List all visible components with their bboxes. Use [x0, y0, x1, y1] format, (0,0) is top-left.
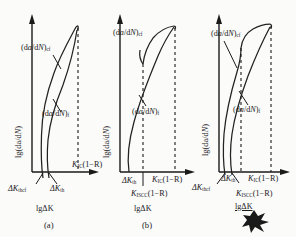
- panel-b-corrosion-fatigue-label: (da/dN)cf: [113, 29, 142, 37]
- panel-a-y-axis-label: lg(da/dN): [14, 126, 23, 158]
- kiscc-suffix: (1−R): [148, 189, 168, 198]
- panel-b-fatigue-label: (da/dN)f: [132, 108, 159, 116]
- y-axis-arrow: [29, 14, 35, 24]
- cf-lbl-sub: cf: [139, 31, 143, 37]
- dark-ink-blotch-artifact: [242, 208, 272, 234]
- panel-b-kic-label: KIC(1−R): [152, 176, 182, 184]
- panel-a-caption: (a): [44, 221, 54, 230]
- corrosion-fatigue-curve: [143, 26, 174, 64]
- kiscc-suffix: (1−R): [253, 189, 273, 198]
- fatigue-curve: [128, 27, 174, 172]
- y-label-N: N: [201, 127, 210, 133]
- x-axis-arrow: [280, 169, 290, 175]
- x-axis-text: lgΔK: [134, 204, 152, 213]
- f-lbl-sub: f: [158, 110, 160, 116]
- fatigue-curve: [231, 27, 271, 175]
- panel-b-caption: (b): [142, 221, 152, 230]
- panel-a-tick-delta-k-thcf: ΔKthcf: [8, 185, 26, 193]
- thcf-sym: ΔK: [8, 184, 18, 193]
- panel-c: lg(da/dN) (da/dN)cf (da/dN)f ΔKthcf ΔKth…: [192, 0, 296, 237]
- x-axis-text: lgΔK: [36, 204, 54, 213]
- th-sym: ΔK: [50, 184, 60, 193]
- y-label-text: lg(da/d: [102, 134, 111, 158]
- panel-a: lg(da/dN) (da/dN)cf (da/dN)f ΔKthcf ΔKth…: [0, 0, 100, 237]
- thcf-sub: thcf: [202, 186, 210, 192]
- th-sub: th: [231, 177, 235, 183]
- thcf-sub: thcf: [18, 187, 26, 193]
- thcf-sym: ΔK: [192, 183, 202, 192]
- tick-leader-thcf: [36, 173, 43, 184]
- panel-c-tick-delta-k-th: ΔKth: [221, 175, 235, 183]
- tick-leader-th: [49, 173, 57, 184]
- y-label-text: lg(da/d: [201, 132, 210, 156]
- panel-c-y-axis-label: lg(da/dN): [201, 124, 210, 156]
- panel-c-kic-label: KIC(1−R): [248, 175, 278, 183]
- y-label-tail: ): [201, 124, 210, 127]
- panel-c-corrosion-fatigue-label: (da/dN)cf: [211, 30, 240, 38]
- cf-lbl-sub: cf: [237, 32, 241, 38]
- y-axis-arrow: [216, 14, 222, 24]
- th-sym: ΔK: [122, 176, 132, 185]
- fatigue-curve: [47, 30, 77, 178]
- panel-c-kiscc-label: KISCC(1−R): [236, 190, 272, 198]
- f-lbl-prefix: (d: [233, 105, 240, 114]
- f-lbl-prefix: (d: [42, 109, 49, 118]
- y-axis-arrow: [117, 14, 123, 24]
- panel-b-x-axis-label: lgΔK: [134, 205, 152, 213]
- cf-lbl-prefix: (d: [21, 43, 28, 52]
- y-label-tail: ): [14, 126, 23, 129]
- panel-b-y-axis-label: lg(da/dN): [102, 126, 111, 158]
- panel-c-tick-delta-k-thcf: ΔKthcf: [192, 184, 210, 192]
- y-label-tail: ): [102, 126, 111, 129]
- blotch-shape: [242, 210, 269, 233]
- th-sub: th: [132, 179, 136, 185]
- kic-suffix: (1−R): [259, 174, 279, 183]
- panel-b-kiscc-label: KISCC(1−R): [131, 190, 167, 198]
- y-label-N: N: [14, 129, 23, 135]
- corrosion-fatigue-upper-hook: [140, 50, 143, 64]
- panel-b: lg(da/dN) (da/dN)cf (da/dN)f ΔKth KISCC(…: [96, 0, 196, 237]
- f-lbl-sub: f: [259, 108, 261, 114]
- th-sub: th: [60, 187, 64, 193]
- panel-a-corrosion-fatigue-label: (da/dN)cf: [21, 44, 50, 52]
- panel-a-graphics: [0, 0, 100, 237]
- panel-a-fatigue-label: (da/dN)f: [42, 110, 69, 118]
- cf-lbl-prefix: (d: [211, 29, 218, 38]
- f-lbl-prefix: (d: [132, 107, 139, 116]
- figure-three-panel-crack-growth: lg(da/dN) (da/dN)cf (da/dN)f ΔKthcf ΔKth…: [0, 0, 296, 237]
- panel-b-tick-delta-k-th: ΔKth: [122, 177, 136, 185]
- cf-lbl-sub: cf: [47, 46, 51, 52]
- y-label-text: lg(da/d: [14, 134, 23, 158]
- panel-b-graphics: [96, 0, 196, 237]
- panel-c-fatigue-label: (da/dN)f: [233, 106, 260, 114]
- panel-a-x-axis-label: lgΔK: [36, 205, 54, 213]
- kic-suffix: (1−R): [163, 175, 183, 184]
- cf-lbl-prefix: (d: [113, 28, 120, 37]
- f-lbl-sub: f: [68, 112, 70, 118]
- panel-a-tick-delta-k-th: ΔKth: [50, 185, 64, 193]
- kiscc-sub: ISCC: [136, 192, 147, 198]
- y-label-N: N: [102, 129, 111, 135]
- kiscc-sub: ISCC: [241, 192, 252, 198]
- th-sym: ΔK: [221, 174, 231, 183]
